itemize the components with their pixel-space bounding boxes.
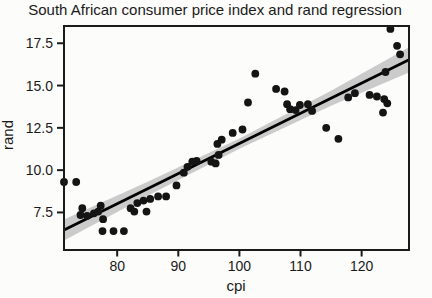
data-point	[78, 204, 86, 212]
data-point	[162, 193, 170, 201]
data-point	[373, 93, 381, 101]
x-tick-label: 80	[109, 258, 125, 274]
data-point	[344, 94, 352, 102]
x-tick-label: 90	[170, 258, 186, 274]
plot-border	[64, 26, 409, 250]
data-point	[335, 135, 343, 143]
data-point	[215, 151, 223, 159]
data-point	[154, 193, 162, 201]
data-point	[308, 107, 316, 115]
data-point	[239, 126, 247, 134]
data-point	[379, 109, 387, 117]
data-point	[110, 227, 118, 235]
data-point	[120, 227, 128, 235]
chart-title: South African consumer price index and r…	[28, 1, 402, 18]
data-point	[72, 178, 80, 186]
data-point	[146, 195, 154, 203]
y-tick-label: 15.0	[26, 78, 53, 94]
data-point	[143, 208, 151, 216]
data-point	[130, 208, 138, 216]
scatter-chart: South African consumer price index and r…	[0, 0, 432, 298]
data-point	[281, 88, 289, 96]
x-tick-label: 100	[228, 258, 252, 274]
y-tick-label: 12.5	[26, 120, 53, 136]
data-point	[251, 70, 259, 78]
data-point	[99, 227, 107, 235]
y-tick-label: 10.0	[26, 162, 53, 178]
x-axis-label: cpi	[226, 277, 245, 294]
data-point	[396, 50, 404, 58]
y-tick-label: 7.5	[34, 204, 54, 220]
data-point	[212, 160, 220, 168]
data-point	[383, 99, 391, 107]
data-point	[173, 182, 181, 190]
data-point	[322, 124, 330, 132]
data-point	[193, 157, 201, 165]
data-point	[393, 42, 401, 50]
data-point	[83, 212, 91, 220]
data-point	[244, 99, 252, 107]
regression-line-layer	[64, 60, 409, 230]
figure: South African consumer price index and r…	[0, 0, 432, 298]
axis-ticks-layer: 80901001101207.510.012.515.017.5	[26, 35, 374, 274]
regression-line	[64, 60, 409, 230]
data-point	[218, 136, 226, 144]
data-point	[304, 100, 312, 108]
data-point	[351, 89, 359, 97]
data-point	[99, 215, 107, 223]
x-tick-label: 110	[289, 258, 312, 274]
data-point	[272, 85, 280, 93]
data-point	[382, 68, 390, 76]
data-point	[296, 101, 304, 109]
x-tick-label: 120	[350, 258, 374, 274]
data-point	[229, 129, 237, 137]
y-tick-label: 17.5	[26, 35, 53, 51]
y-axis-label: rand	[0, 120, 16, 150]
data-point	[366, 91, 374, 99]
data-point	[97, 202, 105, 210]
data-point	[77, 211, 85, 219]
data-point	[140, 197, 148, 205]
